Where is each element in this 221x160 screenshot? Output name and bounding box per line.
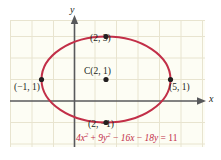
point-label-bottom-vertex: (2, −1)	[88, 120, 114, 130]
equation-op4: =	[158, 133, 168, 143]
point-label-left-vertex: (−1, 1)	[14, 83, 40, 93]
point-label-right-vertex: (5, 1)	[169, 83, 190, 93]
y-axis-label: y	[70, 5, 74, 15]
equation-rhs: 11	[168, 133, 177, 143]
point-label-top-vertex: (2, 3)	[90, 34, 111, 44]
equation-term3: 16x	[121, 133, 135, 143]
point-label-center: C(2, 1)	[84, 67, 111, 77]
ellipse-equation: 4x2 + 9y2 − 16x − 18y = 11	[76, 132, 177, 144]
point-center	[103, 77, 108, 82]
equation-op3: −	[134, 133, 144, 143]
x-axis	[10, 97, 206, 104]
x-axis-label: x	[209, 94, 213, 104]
equation-term4: 18y	[144, 133, 158, 143]
equation-op1: +	[88, 133, 98, 143]
equation-op2: −	[111, 133, 121, 143]
y-axis	[71, 15, 78, 147]
ellipse-figure: y x (2, 3) C(2, 1) (−1, 1) (5, 1) (2, −1…	[0, 0, 221, 160]
